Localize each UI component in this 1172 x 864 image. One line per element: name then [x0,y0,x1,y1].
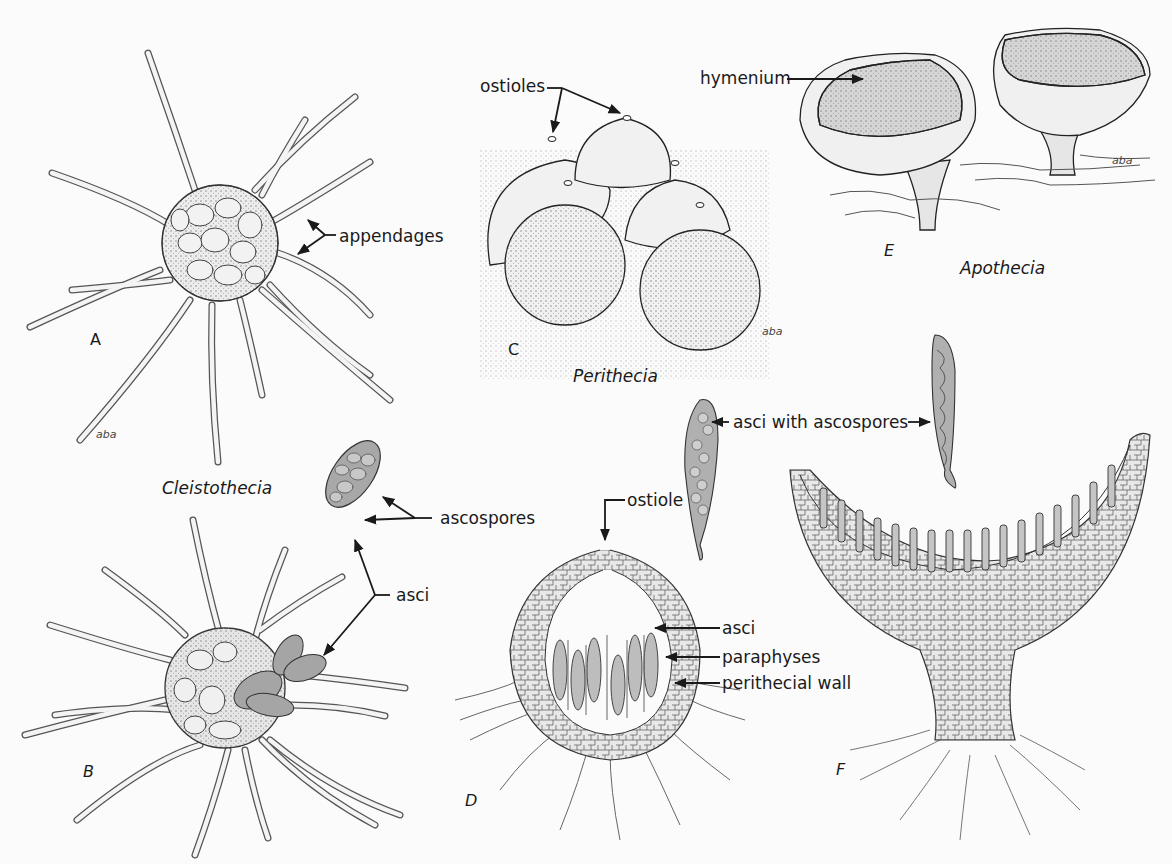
caption-cleistothecia: Cleistothecia [162,480,272,497]
label-ostioles: ostioles [480,78,545,95]
appendages-pointer [298,220,336,254]
panel-letter-c: C [508,342,519,358]
diagram-canvas: appendages ascospores asci ostioles hyme… [0,0,1172,864]
panel-letter-b: B [83,764,94,780]
caption-apothecia: Apothecia [960,260,1045,277]
label-asci-with-ascospores: asci with ascospores [733,414,908,431]
label-perithecial-wall: perithecial wall [722,675,851,692]
label-asci-b: asci [396,587,429,604]
asci-pointer-b [324,540,390,655]
panel-letter-f: F [836,762,845,778]
artist-signature-a: aba [96,428,116,441]
panel-c-perithecia [480,116,770,381]
panel-letter-a: A [90,332,101,348]
panel-e-apothecia [800,28,1155,230]
caption-perithecia: Perithecia [573,368,658,385]
ascospores-pointer [365,497,432,520]
panel-a-cleistothecium [30,53,390,462]
label-asci-d: asci [722,620,755,637]
label-ascospores: ascospores [440,510,535,527]
panel-letter-d: D [465,793,477,809]
artist-signature-e: aba [1112,154,1132,167]
panel-letter-e: E [884,243,894,259]
panel-d-free-ascus [685,400,718,561]
label-hymenium: hymenium [700,70,791,87]
label-appendages: appendages [339,228,444,245]
illustration-layer [0,0,1172,864]
label-ostiole: ostiole [627,492,683,509]
label-paraphyses: paraphyses [722,649,820,666]
panel-d-perithecium-section [455,550,745,840]
artist-signature-c: aba [762,325,782,338]
